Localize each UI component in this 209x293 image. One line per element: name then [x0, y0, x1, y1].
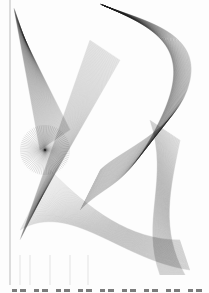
figure-caption: [12, 286, 202, 293]
caption-text: [12, 289, 202, 292]
artwork-frame: [0, 0, 209, 293]
line-sweep-drawing: [0, 0, 209, 293]
